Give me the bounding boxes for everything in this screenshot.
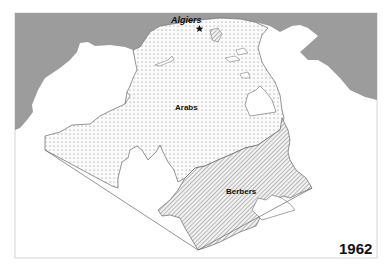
region-label-berbers: Berbers xyxy=(226,187,256,196)
city-label-algiers: Algiers xyxy=(171,15,202,25)
region-label-arabs: Arabs xyxy=(175,103,198,112)
year-label: 1962 xyxy=(339,240,372,257)
map-canvas xyxy=(0,0,391,272)
